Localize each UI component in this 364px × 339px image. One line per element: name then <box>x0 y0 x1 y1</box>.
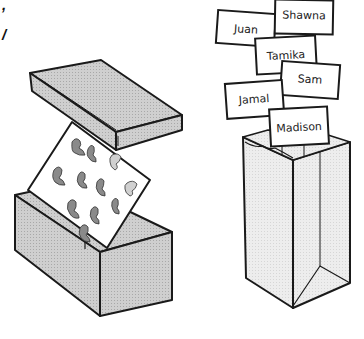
name-card-sam: Sam <box>280 61 340 99</box>
name-juan: Juan <box>233 22 259 37</box>
name-card-shawna: Shawna <box>275 0 334 35</box>
name-card-madison: Madison <box>269 107 329 147</box>
illustration: Juan Shawna Tamika Sam Jamal Madison <box>0 0 364 339</box>
name-sam: Sam <box>297 72 322 87</box>
paper-bag <box>243 130 350 308</box>
box-lid <box>30 60 182 150</box>
name-shawna: Shawna <box>282 9 326 23</box>
name-jamal: Jamal <box>237 92 269 107</box>
name-madison: Madison <box>276 120 322 135</box>
